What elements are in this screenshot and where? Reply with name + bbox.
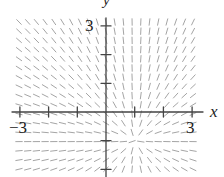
slope-segment	[182, 75, 186, 80]
slope-segment	[33, 159, 39, 160]
slope-segment	[183, 37, 186, 43]
slope-segment	[51, 168, 57, 170]
slope-segment	[164, 167, 169, 171]
slope-segment	[113, 93, 116, 99]
slope-segment	[94, 159, 100, 162]
slope-segment	[69, 75, 74, 80]
slope-segment	[68, 132, 74, 133]
slope-segment	[139, 130, 143, 135]
slope-segment	[16, 104, 22, 106]
slope-segment	[86, 84, 90, 89]
slope-segment	[157, 46, 159, 52]
slope-segment	[149, 83, 151, 89]
slope-segment	[123, 83, 124, 89]
slope-segment	[174, 37, 176, 43]
slope-segment	[86, 112, 92, 115]
slope-segment	[96, 56, 99, 62]
slope-segment	[183, 19, 186, 25]
slope-segment	[183, 28, 186, 34]
slope-segment	[123, 19, 124, 25]
slope-segment	[68, 103, 74, 106]
slope-segment	[34, 38, 39, 43]
slope-segment	[51, 66, 56, 70]
slope-segment	[140, 102, 141, 108]
slope-segment	[33, 168, 39, 170]
slope-segment	[68, 150, 74, 151]
slope-segment	[190, 159, 196, 161]
slope-segment	[155, 131, 161, 133]
slope-segment	[157, 93, 160, 99]
slope-segment	[69, 94, 74, 98]
slope-segment	[78, 75, 82, 80]
slope-segment	[140, 83, 141, 89]
slope-segment	[114, 19, 115, 25]
slope-segment	[51, 85, 56, 89]
slope-segment	[33, 132, 39, 133]
slope-segment	[52, 38, 56, 43]
slope-segment	[192, 19, 195, 25]
slope-segment	[190, 103, 196, 106]
slope-segment	[51, 75, 56, 79]
slope-segment	[16, 94, 22, 96]
slope-segment	[181, 150, 187, 151]
slope-segment	[166, 37, 168, 43]
slope-segment	[16, 76, 22, 79]
slope-segment	[140, 120, 142, 126]
slope-segment	[86, 93, 91, 98]
slope-segment	[33, 104, 39, 106]
slope-segment	[17, 38, 22, 42]
slope-segment	[113, 102, 116, 108]
slope-segment	[25, 29, 30, 34]
slope-segment	[166, 56, 168, 62]
slope-segment	[51, 150, 57, 151]
slope-segment	[96, 74, 99, 80]
slope-segment	[149, 65, 150, 71]
slope-segment	[59, 168, 65, 170]
slope-segment	[164, 122, 170, 125]
slope-segment	[87, 56, 90, 62]
slope-segment	[173, 159, 179, 162]
slope-segment	[181, 168, 187, 171]
slope-segment	[96, 47, 98, 53]
slope-segment	[182, 84, 186, 89]
slope-segment	[140, 166, 141, 172]
slope-segment	[173, 112, 178, 116]
slope-segment	[123, 56, 124, 62]
slope-segment	[86, 103, 91, 107]
slope-segment	[34, 66, 39, 70]
slope-segment	[60, 75, 65, 79]
slope-segment	[95, 167, 100, 171]
slope-segment	[34, 75, 39, 79]
slope-segment	[51, 159, 57, 161]
slope-segment	[164, 158, 170, 161]
slope-segment	[174, 84, 178, 89]
slope-segment	[174, 74, 178, 79]
slope-segment	[34, 29, 38, 34]
slope-segment	[79, 19, 82, 25]
slope-segment	[43, 19, 47, 24]
slope-segment	[190, 168, 196, 171]
slope-segment	[174, 65, 177, 71]
slope-segment	[123, 92, 125, 98]
slope-segment	[61, 19, 64, 25]
slope-segment	[123, 65, 124, 71]
slope-segment	[59, 150, 65, 151]
slope-segment	[132, 120, 133, 126]
slope-segment	[174, 47, 177, 53]
slope-segment	[16, 159, 22, 160]
slope-segment	[42, 113, 48, 115]
slope-segment	[25, 94, 31, 97]
slope-segment	[77, 132, 83, 133]
slope-segment	[157, 65, 159, 71]
slope-segment	[149, 74, 150, 80]
slope-segment	[60, 47, 64, 52]
slope-segment	[148, 93, 150, 99]
slope-segment	[70, 19, 73, 25]
slope-segment	[59, 113, 65, 115]
slope-segment	[69, 56, 73, 61]
slope-field-diagram: y x 3 −3 3	[0, 0, 224, 177]
y-tick-label-3: 3	[85, 16, 94, 35]
slope-segment	[122, 102, 124, 108]
slope-segment	[86, 167, 92, 170]
slope-segment	[165, 74, 168, 80]
